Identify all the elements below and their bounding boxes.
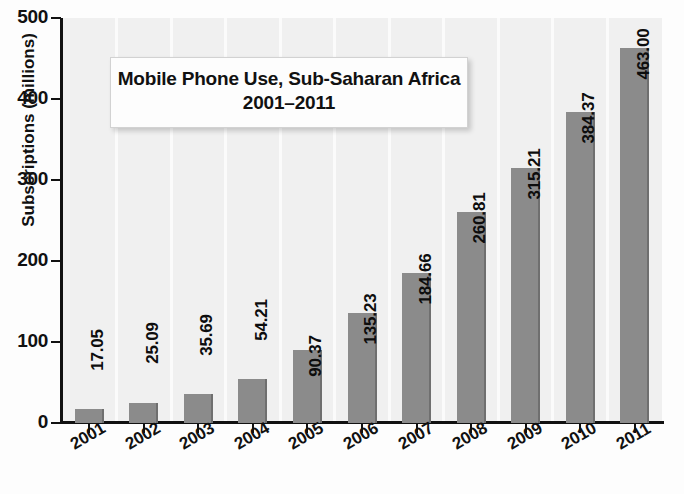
bar-value-label: 17.05 <box>88 329 108 371</box>
bar-value-label: 384.37 <box>579 92 599 143</box>
bar: 315.21 <box>511 168 540 423</box>
bar-value-label: 25.09 <box>143 322 163 364</box>
bar-value-label: 90.37 <box>306 335 326 377</box>
bar: 184.66 <box>402 273 431 423</box>
chart-title-box: Mobile Phone Use, Sub-Saharan Africa 200… <box>110 57 468 128</box>
y-tick-mark <box>51 98 61 100</box>
y-tick-label: 0 <box>4 411 48 433</box>
bar-value-label: 184.66 <box>416 254 436 305</box>
bar: 90.37 <box>293 350 322 423</box>
y-tick-label: 200 <box>4 249 48 271</box>
bar-value-label: 260.81 <box>470 192 490 243</box>
bar-value-label: 463.00 <box>634 29 654 80</box>
y-tick-mark <box>51 422 61 424</box>
bar: 463.00 <box>620 48 649 423</box>
y-tick-mark <box>51 179 61 181</box>
bar: 135.23 <box>348 313 377 423</box>
bar: 260.81 <box>457 212 486 423</box>
chart-title: Mobile Phone Use, Sub-Saharan Africa <box>111 67 467 91</box>
bar-value-label: 54.21 <box>252 299 272 341</box>
bar-value-label: 315.21 <box>525 148 545 199</box>
x-tick-label: 2011 <box>613 419 654 454</box>
y-tick-mark <box>51 260 61 262</box>
y-axis-title: Subscriptions (millions) <box>19 15 39 245</box>
bar-chart-figure: 0100200300400500 17.0525.0935.6954.2190.… <box>0 0 684 494</box>
bar: 384.37 <box>566 112 595 423</box>
y-tick-label: 100 <box>4 330 48 352</box>
y-tick-mark <box>51 341 61 343</box>
bar: 54.21 <box>238 379 267 423</box>
bar-value-label: 135.23 <box>361 294 381 345</box>
y-tick-mark <box>51 17 61 19</box>
bar-value-label: 35.69 <box>197 314 217 356</box>
chart-subtitle: 2001–2011 <box>111 91 467 115</box>
